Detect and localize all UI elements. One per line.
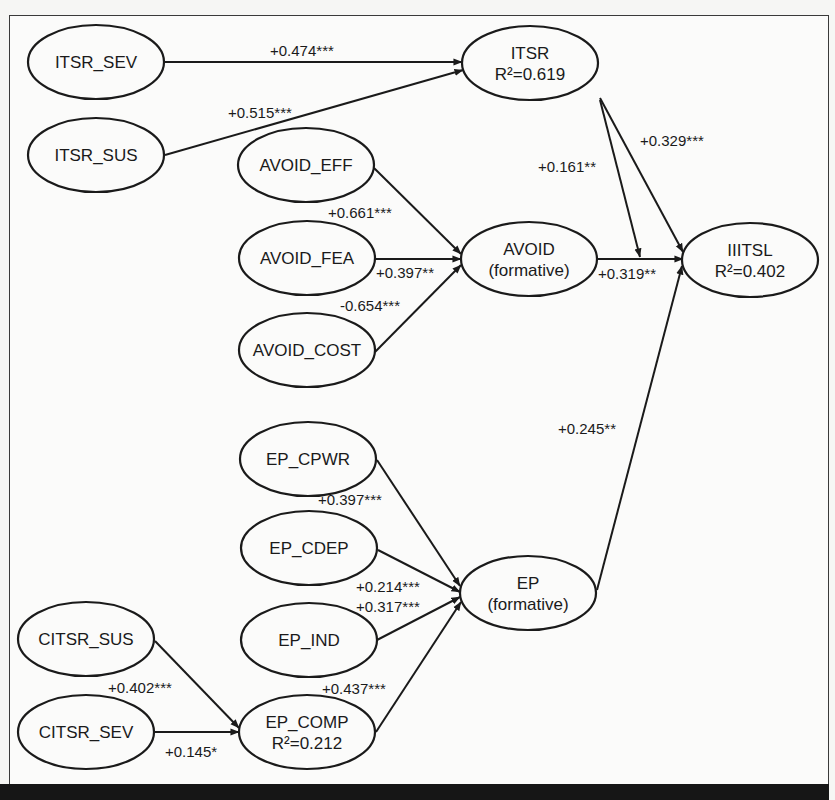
diagram-canvas: ITSR_SEVITSR_SUSITSRR²=0.619AVOID_EFFAVO… (0, 0, 835, 800)
node-name: AVOID_FEA (260, 249, 355, 268)
paths-layer (155, 62, 683, 732)
path-coefficient-label: +0.317*** (356, 598, 420, 615)
path-coefficient-label: +0.515*** (228, 104, 292, 121)
path-coefficient-label: +0.474*** (270, 42, 334, 59)
path-arrow-ep-cpwr-to-ep (377, 460, 460, 586)
node-name: AVOID (503, 240, 555, 259)
node-name: EP_COMP (265, 713, 348, 732)
construct-node-citsr-sev: CITSR_SEV (18, 695, 154, 769)
construct-node-ep: EP(formative) (460, 556, 596, 630)
node-name: ITSR_SEV (55, 53, 138, 72)
path-coefficient-label: +0.145* (165, 743, 217, 760)
construct-node-ep-cdep: EP_CDEP (241, 511, 377, 585)
construct-node-avoid: AVOID(formative) (461, 222, 597, 296)
path-coefficient-label: +0.437*** (322, 680, 386, 697)
node-ellipse (682, 223, 818, 297)
node-name: AVOID_COST (253, 341, 361, 360)
path-coefficient-label: +0.214*** (356, 578, 420, 595)
path-arrow-ep-comp-to-ep (376, 602, 461, 732)
construct-node-avoid-fea: AVOID_FEA (239, 221, 375, 295)
path-coefficient-label: +0.245** (558, 420, 616, 437)
sem-path-diagram: ITSR_SEVITSR_SUSITSRR²=0.619AVOID_EFFAVO… (0, 0, 835, 800)
path-arrow-itsr-to-avoid-iiitsl (600, 100, 640, 257)
node-name: EP_IND (278, 631, 339, 650)
construct-node-ep-cpwr: EP_CPWR (240, 422, 376, 496)
path-coefficient-label: +0.402*** (108, 679, 172, 696)
path-coefficient-label: +0.329*** (640, 132, 704, 149)
path-coefficient-label: -0.654*** (340, 297, 400, 314)
node-name: CITSR_SEV (39, 723, 134, 742)
node-r-squared: R²=0.212 (272, 734, 342, 753)
path-coefficient-label: +0.397*** (318, 491, 382, 508)
construct-node-citsr-sus: CITSR_SUS (18, 602, 154, 676)
construct-node-iiitsl: IIITSLR²=0.402 (682, 223, 818, 297)
node-name: ITSR (511, 44, 550, 63)
node-r-squared: R²=0.619 (495, 65, 565, 84)
construct-node-itsr-sev: ITSR_SEV (28, 25, 164, 99)
node-ellipse (462, 26, 598, 100)
construct-node-avoid-eff: AVOID_EFF (238, 128, 374, 202)
node-name: AVOID_EFF (259, 156, 352, 175)
path-arrow-itsr-to-iiitsl (600, 98, 683, 252)
node-name: IIITSL (727, 241, 772, 260)
node-name: EP_CPWR (266, 450, 350, 469)
node-ellipse (461, 222, 597, 296)
node-ellipse (460, 556, 596, 630)
node-name: EP (517, 574, 540, 593)
construct-node-itsr-sus: ITSR_SUS (28, 118, 164, 192)
node-name: ITSR_SUS (54, 146, 137, 165)
bottom-black-band (0, 784, 829, 800)
node-name: EP_CDEP (269, 539, 348, 558)
path-coefficient-label: +0.319** (598, 265, 656, 282)
construct-node-itsr: ITSRR²=0.619 (462, 26, 598, 100)
node-name: CITSR_SUS (38, 630, 133, 649)
path-coefficient-label: +0.661*** (328, 204, 392, 221)
coefficient-labels-layer: +0.474***+0.515***+0.661***+0.397**-0.65… (108, 42, 704, 760)
construct-node-avoid-cost: AVOID_COST (239, 313, 375, 387)
node-subtitle: (formative) (487, 595, 568, 614)
node-r-squared: R²=0.402 (715, 262, 785, 281)
node-subtitle: (formative) (488, 261, 569, 280)
path-coefficient-label: +0.397** (376, 264, 434, 281)
construct-node-ep-comp: EP_COMPR²=0.212 (239, 695, 375, 769)
path-coefficient-label: +0.161** (538, 158, 596, 175)
node-ellipse (239, 695, 375, 769)
